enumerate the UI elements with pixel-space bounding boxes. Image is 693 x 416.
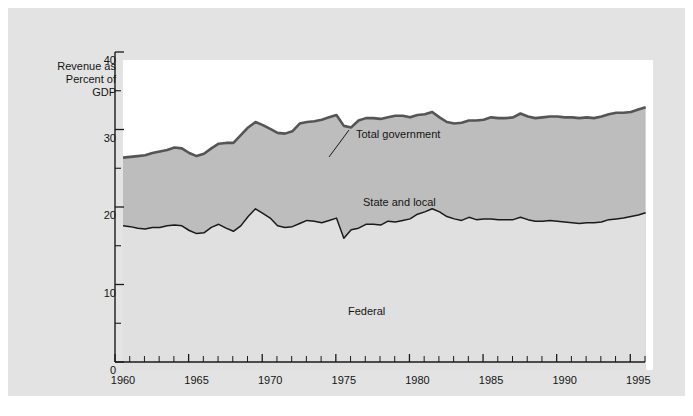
x-axis-tick-labels: 19601965197019751980198519901995	[123, 374, 683, 392]
plot-area	[123, 60, 653, 370]
x-axis-tick-label: 1965	[184, 374, 208, 386]
x-axis-tick-label: 1975	[332, 374, 356, 386]
y-axis-tick-labels: 010203040	[68, 60, 116, 370]
chart-screenshot: Revenue as Percent of GDP 010203040 1960…	[0, 0, 693, 416]
y-axis-tick-label: 20	[104, 209, 116, 221]
x-axis-tick-label: 1960	[111, 374, 135, 386]
figure-panel: Revenue as Percent of GDP 010203040 1960…	[8, 8, 685, 396]
series-label-state-and-local: State and local	[363, 196, 436, 208]
series-label-federal: Federal	[348, 305, 385, 317]
x-axis-tick-label: 1985	[479, 374, 503, 386]
x-axis-tick-label: 1995	[626, 374, 650, 386]
x-axis-tick-label: 1990	[552, 374, 576, 386]
x-axis-tick-label: 1970	[258, 374, 282, 386]
x-axis-tick-label: 1980	[405, 374, 429, 386]
series-label-total-government: Total government	[356, 128, 440, 140]
area-chart-svg	[123, 60, 653, 370]
y-axis-tick-label: 10	[104, 287, 116, 299]
y-axis-tick-label: 40	[104, 54, 116, 66]
y-axis-tick-label: 30	[104, 132, 116, 144]
